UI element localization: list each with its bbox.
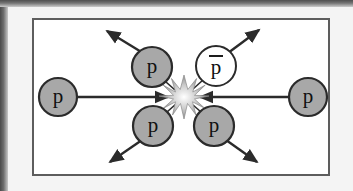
particle-label: p <box>211 55 222 79</box>
track-line-lower-left <box>110 140 142 162</box>
particle-label: p <box>53 84 64 108</box>
outgoing-proton-lower-left: p <box>133 106 173 146</box>
outgoing-proton-lower-right: p <box>194 106 234 146</box>
incoming-beam-left: p <box>39 78 77 116</box>
particle-label: p <box>209 113 220 137</box>
incoming-beam-right: p <box>289 78 327 116</box>
collision-diagram: p p p p p p <box>0 0 353 191</box>
track-line-lower-right <box>226 140 257 162</box>
track-line-upper-left <box>107 31 143 53</box>
outgoing-proton-upper-left: p <box>132 47 172 87</box>
particle-label: p <box>148 113 159 137</box>
track-line-upper-right <box>228 30 259 53</box>
figure-root: p p p p p p <box>0 0 353 191</box>
particle-label: p <box>147 54 158 78</box>
particle-label: p <box>303 84 314 108</box>
outgoing-antiproton-upper-right: p <box>196 46 236 86</box>
